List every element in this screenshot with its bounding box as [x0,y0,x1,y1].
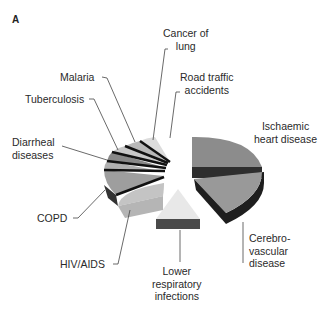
label-line: Malaria [60,71,94,84]
label-line: Lower [152,265,202,278]
label-line: Tuberculosis [25,93,84,106]
label-line: Ischaemic [254,120,317,133]
slice-cerebrovascular-disease [194,172,264,224]
label-line: lung [163,40,209,53]
label-ischaemic: Ischaemic heart disease [254,120,317,145]
label-diarrheal: Diarrheal diseases [12,136,55,161]
label-cancer-of-lung: Cancer of lung [163,27,209,52]
label-lower-respiratory: Lower respiratory infections [152,265,202,303]
label-line: heart disease [254,133,317,146]
label-hiv-aids: HIV/AIDS [60,258,105,271]
label-line: infections [152,290,202,303]
slice-ischaemic-heart-disease [192,137,262,178]
label-tuberculosis: Tuberculosis [25,93,84,106]
label-line: diseases [12,149,55,162]
label-cerebrovascular: Cerebro- vascular disease [249,232,290,270]
label-line: HIV/AIDS [60,258,105,271]
label-malaria: Malaria [60,71,94,84]
label-copd: COPD [37,212,67,225]
label-line: accidents [180,84,234,97]
label-line: Road traffic [180,71,234,84]
label-line: disease [249,257,290,270]
label-line: COPD [37,212,67,225]
label-line: Diarrheal [12,136,55,149]
label-line: vascular [249,245,290,258]
label-line: respiratory [152,278,202,291]
label-line: Cerebro- [249,232,290,245]
label-road-traffic: Road traffic accidents [180,71,234,96]
label-line: Cancer of [163,27,209,40]
